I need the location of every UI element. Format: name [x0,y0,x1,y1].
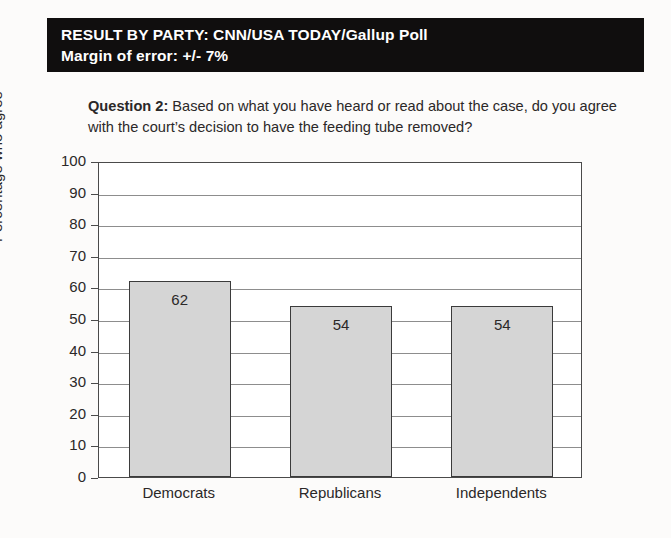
bar-value-label: 54 [291,316,391,333]
banner-title-line1: RESULT BY PARTY: CNN/USA TODAY/Gallup Po… [61,24,644,45]
y-axis-tick-label: 90 [46,184,86,201]
bar: 54 [451,306,553,477]
y-axis-tick-label: 70 [46,247,86,264]
y-axis-tick-mark [91,288,98,289]
bar: 62 [129,281,231,477]
y-axis-tick-mark [91,352,98,353]
gridline [99,258,581,259]
y-axis-tick-mark [91,320,98,321]
x-axis-category-label: Independents [411,484,591,501]
y-axis-tick-mark [91,257,98,258]
y-axis-tick-label: 20 [46,405,86,422]
x-axis-category-label: Democrats [89,484,269,501]
y-axis-tick-label: 50 [46,310,86,327]
gridline [99,195,581,196]
bar-value-label: 54 [452,316,552,333]
y-axis-tick-mark [91,478,98,479]
y-axis-tick-label: 10 [46,436,86,453]
y-axis-tick-mark [91,446,98,447]
y-axis-tick-mark [91,194,98,195]
question-body: Based on what you have heard or read abo… [88,98,617,135]
y-axis-tick-label: 0 [46,468,86,485]
page-bottom-margin [0,505,671,538]
y-axis-tick-label: 60 [46,278,86,295]
y-axis-tick-label: 30 [46,373,86,390]
y-axis-title: Percentage who agree [0,91,5,242]
result-banner: RESULT BY PARTY: CNN/USA TODAY/Gallup Po… [47,18,644,72]
y-axis-tick-label: 40 [46,342,86,359]
y-axis-tick-label: 100 [46,152,86,169]
plot-area: 625454 [98,162,582,478]
y-axis-tick-mark [91,383,98,384]
gridline [99,226,581,227]
bar: 54 [290,306,392,477]
question-text: Question 2: Based on what you have heard… [88,96,628,138]
bar-value-label: 62 [130,291,230,308]
x-axis-category-label: Republicans [250,484,430,501]
question-number: Question 2: [88,98,168,114]
y-axis-tick-label: 80 [46,215,86,232]
banner-margin-of-error: Margin of error: +/- 7% [61,45,644,66]
y-axis-tick-mark [91,162,98,163]
y-axis-tick-mark [91,415,98,416]
bar-chart: Percentage who agree 0102030405060708090… [0,150,671,530]
y-axis-tick-mark [91,225,98,226]
